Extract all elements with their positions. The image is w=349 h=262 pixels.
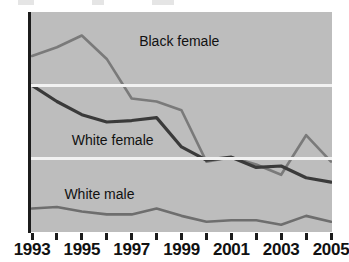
series-line-black-female — [32, 35, 331, 174]
gridline-5 — [31, 157, 332, 160]
x-tick-label-2001: 2001 — [213, 241, 250, 258]
x-tick-2002 — [255, 233, 258, 240]
top-crop-artifact-2 — [92, 0, 104, 5]
x-tick-2003 — [280, 233, 283, 240]
x-tick-label-1995: 1995 — [64, 241, 101, 258]
x-tick-1999 — [180, 233, 183, 240]
y-axis-line — [28, 12, 31, 233]
top-crop-artifact-1 — [18, 0, 34, 5]
x-tick-label-2003: 2003 — [263, 241, 300, 258]
series-label-black-female: Black female — [139, 34, 219, 48]
x-tick-1993 — [31, 233, 34, 240]
x-tick-1996 — [105, 233, 108, 240]
x-tick-label-1997: 1997 — [113, 241, 150, 258]
x-tick-1998 — [155, 233, 158, 240]
x-tick-label-2005: 2005 — [313, 241, 349, 258]
plot-area: Black female White female White male — [31, 12, 332, 232]
x-tick-1994 — [55, 233, 58, 240]
x-tick-2000 — [205, 233, 208, 240]
x-tick-2001 — [230, 233, 233, 240]
x-tick-label-1999: 1999 — [163, 241, 200, 258]
x-tick-2004 — [305, 233, 308, 240]
x-tick-1995 — [80, 233, 83, 240]
top-crop-artifact-3 — [152, 0, 174, 5]
series-label-white-male: White male — [64, 187, 134, 201]
gridline-10 — [31, 84, 332, 87]
x-tick-2005 — [330, 233, 333, 240]
series-line-white-male — [32, 207, 331, 225]
x-tick-label-1993: 1993 — [14, 241, 51, 258]
x-tick-1997 — [130, 233, 133, 240]
series-label-white-female: White female — [72, 133, 154, 147]
